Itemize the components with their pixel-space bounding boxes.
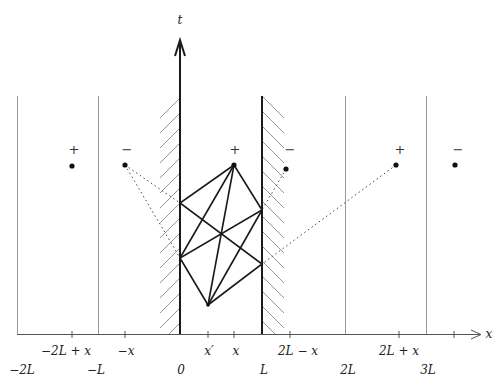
tick-label-minus2Lpx: −2L + x [41,344,91,358]
tick-label-zero: 0 [177,363,185,377]
tick-label-3L: 3L [420,363,436,377]
source-point-x [231,162,236,167]
tick-label-minusL: −L [87,363,105,377]
tick-label-2L: 2L [339,363,356,377]
left-wall-hatching [160,96,182,343]
spacetime-diagram: + − + − + − t x −2L + x −x x′ x 2L − x 2… [0,0,499,385]
sign-label: + [395,142,406,157]
tick-label-L: L [259,363,268,377]
image-point-minus2Lpx [69,163,74,168]
tick-label-xprime: x′ [204,344,214,358]
sign-label: + [69,142,80,157]
sign-label: + [230,142,241,157]
sign-label: − [122,142,133,157]
x-axis [17,330,481,339]
t-axis-label: t [178,13,183,27]
reflection-paths [180,165,262,305]
image-points [69,162,457,306]
origin-point-xprime [206,303,210,307]
tick-label-2Lmx: 2L − x [277,344,318,358]
region-boundaries [18,96,427,334]
tick-label-2Lpx: 2L + x [378,344,419,358]
image-point-2Lpx [393,162,398,167]
image-rays [125,165,396,264]
sign-label: − [453,142,464,157]
image-point-beyond-3L [452,162,457,167]
image-point-2Lmx [283,166,288,171]
right-wall-hatching [262,96,284,343]
tick-label-minusx: −x [118,344,135,358]
sign-label: − [285,142,296,157]
image-point-minusx [122,162,127,167]
tick-label-minus2L: −2L [9,363,35,377]
tick-label-x: x [233,344,240,358]
x-axis-label: x [486,327,493,341]
